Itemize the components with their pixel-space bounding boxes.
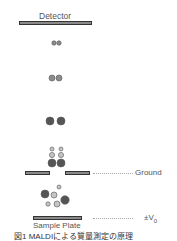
- ion-particle-stack-left: [50, 147, 54, 151]
- ion-particle-scatter: [57, 185, 61, 189]
- figure-caption: 図1 MALDIによる質量測定の原理: [14, 233, 133, 241]
- ion-particle-stack-left: [49, 152, 54, 157]
- ion-particle-stack-right: [58, 152, 63, 157]
- ion-particle-scatter: [54, 201, 60, 207]
- ion-particle-tiny-pair: [57, 41, 61, 45]
- ion-particle-tiny-pair: [52, 41, 56, 45]
- ion-particle-large-pair: [46, 117, 54, 125]
- ion-particle-large-pair: [57, 117, 65, 125]
- ion-particle-scatter: [51, 192, 57, 198]
- ion-particle-stack-left: [48, 159, 56, 167]
- ion-particle-small-pair: [49, 75, 55, 81]
- ion-particle-stack-right: [57, 159, 65, 167]
- ion-particle-small-pair: [56, 75, 62, 81]
- ion-particle-scatter: [46, 202, 50, 206]
- ion-particle-scatter: [41, 190, 49, 198]
- ion-particle-stack-right: [59, 147, 63, 151]
- ion-particle-scatter: [61, 196, 69, 204]
